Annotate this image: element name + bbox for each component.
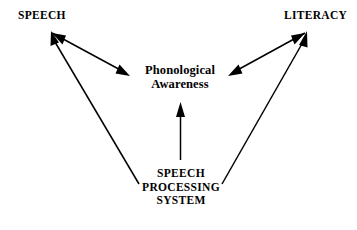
connector-system-phonological-awareness <box>176 102 185 160</box>
connector-line <box>222 42 303 184</box>
node-speech-processing-system-line-3: SYSTEM <box>140 194 222 208</box>
connector-literacy-phonological-awareness <box>228 33 305 76</box>
connector-system-speech <box>51 31 140 184</box>
connector-line <box>55 42 139 184</box>
node-speech-processing-system-line-1: SPEECH <box>140 167 222 181</box>
arrowhead-toward-phonological-awareness <box>176 102 185 117</box>
connector-system-literacy <box>222 31 308 184</box>
node-speech-processing-system: SPEECH PROCESSING SYSTEM <box>140 167 222 208</box>
node-phonological-awareness: Phonological Awareness <box>136 63 224 92</box>
connector-speech-phonological-awareness <box>52 33 130 76</box>
node-phonological-awareness-line-1: Phonological <box>136 63 224 77</box>
node-literacy: LITERACY <box>284 9 347 22</box>
node-speech-processing-system-line-2: PROCESSING <box>140 181 222 195</box>
arrowhead-toward-phonological-awareness <box>116 65 131 77</box>
node-speech: SPEECH <box>18 9 66 22</box>
node-phonological-awareness-line-2: Awareness <box>136 77 224 91</box>
arrowhead-toward-phonological-awareness <box>228 65 243 77</box>
diagram-canvas: SPEECH LITERACY Phonological Awareness S… <box>0 0 357 230</box>
